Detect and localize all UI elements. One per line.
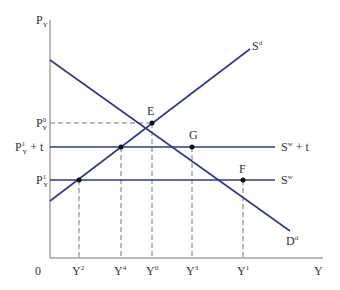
label-domestic-demand: Dd <box>286 234 299 248</box>
x-tick-y4: Y4 <box>114 264 127 278</box>
domestic-demand-curve <box>50 60 290 231</box>
label-g: G <box>189 128 198 142</box>
y-axis-label: PY <box>36 13 48 29</box>
label-f: F <box>239 162 246 176</box>
x-tick-y3: Y3 <box>186 264 199 278</box>
label-domestic-supply: Sd <box>252 39 263 53</box>
point-supply-world <box>77 178 82 183</box>
point-e <box>150 121 155 126</box>
point-f <box>241 178 246 183</box>
x-tick-y0: Y0 <box>146 264 159 278</box>
label-world-supply-plus-tariff: Sw + t <box>281 140 310 154</box>
y-tick-p0: P0Y <box>36 116 47 132</box>
label-world-supply: Sw <box>281 173 294 187</box>
point-g <box>190 145 195 150</box>
x-tick-y2: Y2 <box>72 264 85 278</box>
y-tick-p1-plus-t: P1Y + t <box>15 140 44 156</box>
y-tick-p1: P1Y <box>36 173 48 189</box>
guide-lines <box>50 123 243 258</box>
origin-label: 0 <box>35 264 41 278</box>
tariff-diagram: E G F PY Y 0 P0Y P1Y + t P1Y Y2 Y4 Y0 Y3… <box>0 0 340 290</box>
point-supply-tariff <box>119 145 124 150</box>
x-axis-label: Y <box>314 264 323 278</box>
x-tick-y1: Y1 <box>237 264 250 278</box>
label-e: E <box>147 104 154 118</box>
